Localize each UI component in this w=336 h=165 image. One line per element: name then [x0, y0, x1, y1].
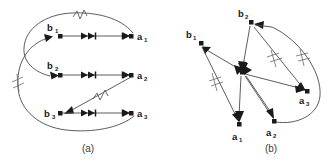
node-label-b3: b 3	[44, 108, 56, 120]
node-dot-a2	[129, 73, 134, 78]
node-label-b2: b 2	[238, 8, 249, 20]
zigzag-mark-icon	[73, 10, 87, 19]
svg-text:1: 1	[193, 35, 197, 41]
node-label-a3: a 3	[299, 95, 310, 107]
arrowhead-icon	[50, 72, 59, 80]
node-dot-b2	[249, 20, 254, 25]
svg-text:a: a	[137, 31, 143, 42]
edge-hub-to-a2	[246, 76, 274, 119]
svg-text:b: b	[47, 22, 53, 33]
svg-text:2: 2	[144, 76, 148, 82]
svg-text:2: 2	[245, 14, 249, 20]
node-label-a2: a 2	[137, 70, 148, 82]
svg-text:b: b	[47, 60, 53, 71]
svg-text:1: 1	[239, 137, 243, 143]
node-dot-b1	[58, 34, 63, 39]
arrowhead-icon	[232, 112, 239, 123]
panel-b: b 1 b 2 a 1 a 2 a 3 (b)	[186, 8, 320, 154]
caption-panel-a: (a)	[82, 143, 94, 154]
caption-panel-b: (b)	[265, 143, 277, 154]
svg-text:2: 2	[273, 133, 277, 139]
marker-mid-double-icon	[81, 33, 96, 40]
svg-text:2: 2	[55, 66, 59, 72]
svg-text:b: b	[44, 108, 50, 119]
node-label-b1: b 1	[47, 22, 59, 34]
node-label-b2: b 2	[47, 60, 59, 72]
diagram-canvas: b 1 b 2 b 3 a 1 a 2 a 3 (a)	[0, 0, 336, 165]
node-dot-hub	[240, 70, 245, 75]
marker-end-arrow-icon	[123, 33, 131, 40]
marker-end-arrow-icon	[123, 110, 131, 117]
svg-text:3: 3	[52, 114, 56, 120]
node-dot-a3	[305, 89, 310, 94]
marker-mid-double-icon	[81, 72, 96, 79]
svg-text:1: 1	[55, 28, 59, 34]
svg-text:a: a	[232, 131, 238, 142]
node-label-a1: a 1	[137, 31, 148, 43]
node-dot-a1	[237, 122, 242, 127]
svg-text:a: a	[266, 127, 272, 138]
edge-b1-to-a1	[61, 33, 131, 40]
edge-a2-to-b2	[254, 21, 320, 123]
marker-mid-double-icon	[81, 110, 96, 117]
edge-b2-to-a3	[254, 27, 306, 91]
node-dot-a1	[129, 34, 134, 39]
svg-text:b: b	[186, 29, 192, 40]
node-dot-b1	[199, 41, 204, 46]
svg-text:3: 3	[144, 114, 148, 120]
node-label-a2: a 2	[266, 127, 277, 139]
svg-text:3: 3	[306, 101, 310, 107]
edge-a1-to-b2	[24, 10, 133, 80]
edge-a2-to-b3	[64, 77, 131, 114]
node-dot-b3	[58, 111, 63, 116]
node-label-a1: a 1	[232, 131, 243, 143]
node-dot-b2	[58, 73, 63, 78]
svg-text:a: a	[137, 70, 143, 81]
node-dot-a2	[272, 119, 277, 124]
node-dot-a3	[129, 111, 134, 116]
edge-b2-to-a2	[61, 72, 131, 79]
panel-a: b 1 b 2 b 3 a 1 a 2 a 3 (a)	[12, 10, 148, 154]
node-label-b1: b 1	[186, 29, 197, 41]
svg-text:b: b	[238, 8, 244, 19]
edge-a3-to-b1	[12, 34, 134, 131]
svg-text:a: a	[137, 108, 143, 119]
svg-text:1: 1	[144, 37, 148, 43]
arrowhead-icon	[44, 34, 53, 42]
marker-end-arrow-icon	[123, 72, 131, 79]
node-label-a3: a 3	[137, 108, 148, 120]
zigzag-mark-icon	[93, 90, 108, 100]
svg-text:a: a	[299, 95, 305, 106]
